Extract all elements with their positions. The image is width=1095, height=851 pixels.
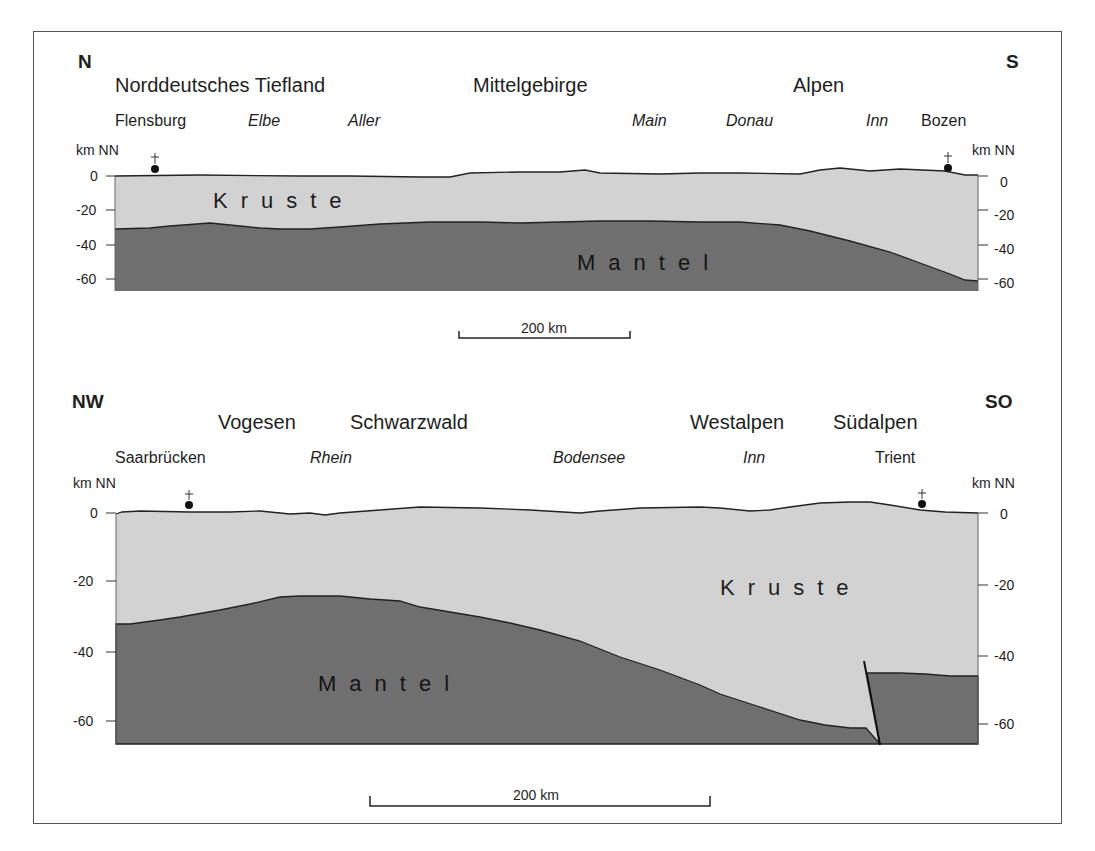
section2-scale-label: 200 km bbox=[513, 788, 559, 802]
section1-bozen-marker bbox=[944, 152, 952, 172]
section1-direction-south: S bbox=[1006, 52, 1019, 71]
section1-river-inn: Inn bbox=[866, 113, 888, 129]
section1-right-tick-40: -40 bbox=[994, 242, 1014, 256]
section2-river-inn: Inn bbox=[743, 450, 765, 466]
section1-region-alpen: Alpen bbox=[793, 75, 844, 95]
section1-right-axis-unit: km NN bbox=[972, 143, 1015, 157]
section2-saarbruecken-marker bbox=[185, 490, 193, 509]
section1-right-tick-0: 0 bbox=[1000, 175, 1008, 189]
section1-label-kruste: Kruste bbox=[213, 190, 355, 212]
section2-trient-marker bbox=[918, 489, 926, 508]
section2-right-tick-60: -60 bbox=[994, 717, 1014, 731]
section1-right-tick-20: -20 bbox=[994, 208, 1014, 222]
section2-left-tick-20: -20 bbox=[73, 574, 93, 588]
section1-flensburg-marker bbox=[151, 153, 159, 173]
section2-region-suedalpen: Südalpen bbox=[833, 412, 918, 432]
section1-label-mantel: Mantel bbox=[577, 252, 721, 274]
section2-mantle-east-block bbox=[867, 673, 978, 744]
section1-left-axis bbox=[106, 176, 115, 279]
section1-region-norddeutsches-tiefland: Norddeutsches Tiefland bbox=[115, 75, 325, 95]
section1-region-mittelgebirge: Mittelgebirge bbox=[473, 75, 588, 95]
section1-river-main: Main bbox=[632, 113, 667, 129]
section1-right-tick-60: -60 bbox=[994, 276, 1014, 290]
section1-river-donau: Donau bbox=[726, 113, 773, 129]
section2-place-saarbruecken: Saarbrücken bbox=[115, 450, 206, 466]
section1-direction-north: N bbox=[78, 52, 92, 71]
section2-label-kruste: Kruste bbox=[720, 577, 862, 599]
section2-region-westalpen: Westalpen bbox=[690, 412, 784, 432]
section2-left-axis bbox=[106, 513, 116, 721]
section1-river-aller: Aller bbox=[348, 113, 380, 129]
section2-region-schwarzwald: Schwarzwald bbox=[350, 412, 468, 432]
section1-right-axis bbox=[978, 176, 988, 279]
section1-left-tick-0: 0 bbox=[90, 169, 98, 183]
section2-place-trient: Trient bbox=[875, 450, 915, 466]
section1-river-elbe: Elbe bbox=[248, 113, 280, 129]
section2-left-axis-unit: km NN bbox=[73, 476, 116, 490]
section2-lake-bodensee: Bodensee bbox=[553, 450, 625, 466]
section1-left-tick-20: -20 bbox=[76, 203, 96, 217]
section1-left-tick-60: -60 bbox=[76, 272, 96, 286]
section2-right-axis-unit: km NN bbox=[972, 476, 1015, 490]
section2-left-tick-60: -60 bbox=[73, 714, 93, 728]
section1-left-axis-unit: km NN bbox=[76, 143, 119, 157]
section1-place-bozen: Bozen bbox=[921, 113, 966, 129]
section2-right-tick-0: 0 bbox=[1000, 507, 1008, 521]
section1-left-tick-40: -40 bbox=[76, 238, 96, 252]
section1-scale-label: 200 km bbox=[521, 321, 567, 335]
section2-right-tick-40: -40 bbox=[994, 649, 1014, 663]
section2-right-tick-20: -20 bbox=[994, 578, 1014, 592]
section2-region-vogesen: Vogesen bbox=[218, 412, 296, 432]
section2-label-mantel: Mantel bbox=[318, 673, 462, 695]
section2-river-rhein: Rhein bbox=[310, 450, 352, 466]
section2-left-tick-0: 0 bbox=[90, 506, 98, 520]
section1-place-flensburg: Flensburg bbox=[115, 113, 186, 129]
section2-direction-northwest: NW bbox=[72, 392, 104, 411]
section2-left-tick-40: -40 bbox=[73, 645, 93, 659]
section2-direction-southeast: SO bbox=[985, 392, 1012, 411]
section2-right-axis bbox=[978, 513, 988, 724]
